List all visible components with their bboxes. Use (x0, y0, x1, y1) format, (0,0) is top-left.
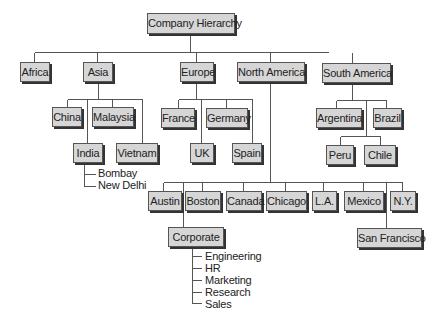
node-north-america[interactable]: North America (237, 62, 305, 82)
node-corporate[interactable]: Corporate (168, 227, 224, 247)
leaf-item: HR (205, 262, 221, 274)
node-chile[interactable]: Chile (364, 145, 396, 165)
node-chicago[interactable]: Chicago (266, 191, 307, 211)
node-boston[interactable]: Boston (185, 191, 221, 211)
node-peru[interactable]: Peru (326, 145, 354, 165)
node-malaysia[interactable]: Malaysia (92, 107, 134, 127)
node-china[interactable]: China (52, 107, 82, 127)
node-germany[interactable]: Germany (206, 108, 248, 128)
node-asia[interactable]: Asia (83, 62, 113, 82)
node-mexico[interactable]: Mexico (344, 191, 384, 211)
node-austin[interactable]: Austin (148, 191, 182, 211)
node-argentina[interactable]: Argentina (316, 108, 362, 128)
node-south-america[interactable]: South America (322, 63, 391, 83)
node-africa[interactable]: Africa (20, 62, 50, 82)
leaf-item: Marketing (205, 274, 252, 286)
node-san-francisco[interactable]: San Francisco (357, 228, 422, 248)
node-india[interactable]: India (73, 143, 103, 163)
node-europe[interactable]: Europe (180, 62, 214, 82)
node-spain[interactable]: Spain (232, 143, 262, 163)
leaf-item: New Delhi (98, 179, 146, 191)
node-la[interactable]: L.A. (312, 191, 337, 211)
node-ny[interactable]: N.Y. (390, 191, 416, 211)
node-canada[interactable]: Canada (226, 191, 262, 211)
leaf-item: Bombay (98, 167, 137, 179)
leaf-item: Sales (205, 298, 232, 310)
node-vietnam[interactable]: Vietnam (116, 143, 158, 163)
leaf-item: Research (205, 286, 250, 298)
node-france[interactable]: France (161, 108, 195, 128)
org-chart: Company Hierarchy AfricaAsiaEuropeNorth … (0, 0, 441, 324)
node-company-hierarchy[interactable]: Company Hierarchy (147, 13, 235, 34)
node-uk[interactable]: UK (190, 143, 214, 163)
leaf-item: Engineering (205, 250, 262, 262)
node-brazil[interactable]: Brazil (373, 108, 402, 128)
